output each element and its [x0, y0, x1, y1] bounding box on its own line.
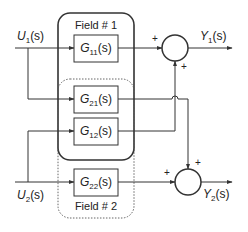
field-2-label: Field # 2	[75, 200, 117, 212]
summing-junction-1	[162, 35, 188, 61]
field-1-label: Field # 1	[75, 19, 117, 31]
output-y1-label: Y1(s)	[200, 29, 226, 45]
input-wires	[15, 48, 74, 182]
block-diagram: Field # 1 Field # 2 U1(s) U2(s) G11(s) G…	[0, 0, 248, 232]
summing-junction-2	[175, 169, 201, 195]
block-output-wires	[118, 48, 188, 182]
sum1-sign-bottom: +	[181, 61, 187, 72]
output-y2-label: Y2(s)	[203, 187, 229, 203]
sum1-sign-left: +	[152, 33, 158, 44]
block-g21: G21(s)	[74, 86, 118, 113]
input-u1-label: U1(s)	[17, 29, 44, 45]
block-g22: G22(s)	[74, 169, 118, 196]
sum2-sign-top: +	[195, 157, 201, 168]
sum2-sign-left: +	[164, 167, 170, 178]
block-g11: G11(s)	[74, 35, 118, 62]
input-u2-label: U2(s)	[17, 188, 44, 204]
block-g12: G12(s)	[74, 118, 118, 145]
